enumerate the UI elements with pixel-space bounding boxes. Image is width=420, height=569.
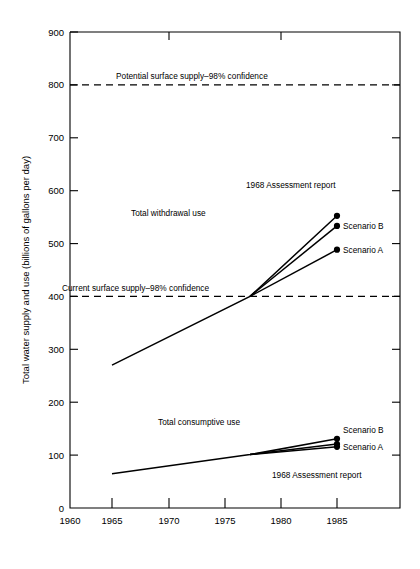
y-tick-label-800: 800	[48, 79, 64, 90]
label-withdrawal-scenario-a: Scenario A	[343, 245, 384, 255]
x-tick-label-1985: 1985	[326, 515, 347, 526]
label-total-withdrawal-use: Total withdrawal use	[131, 208, 206, 218]
label-withdrawal-1968-assessment-report: 1968 Assessment report	[246, 180, 336, 190]
x-axis-ticks-top	[169, 32, 281, 40]
y-tick-label-100: 100	[48, 450, 64, 461]
plot-frame	[70, 32, 400, 508]
y-tick-label-500: 500	[48, 238, 64, 249]
endpoint-withdrawal-1968-assessment-report	[334, 213, 340, 219]
current-surface-supply-label: Current surface supply–98% confidence	[62, 283, 210, 293]
series-group-total-withdrawal-use: 1968 Assessment report Scenario B Scenar…	[112, 180, 384, 365]
y-axis-tick-labels: 900 800 700 600 500 400 300 200 100 0	[48, 27, 64, 514]
x-tick-label-1970: 1970	[158, 515, 179, 526]
endpoint-withdrawal-scenario-a	[334, 247, 340, 253]
x-tick-label-1965: 1965	[101, 515, 122, 526]
x-tick-label-1980: 1980	[270, 515, 291, 526]
y-tick-label-300: 300	[48, 344, 64, 355]
label-total-consumptive-use: Total consumptive use	[158, 417, 240, 427]
y-axis-title: Total water supply and use (billions of …	[20, 156, 31, 384]
endpoint-consumptive-1968-assessment-report	[334, 444, 340, 450]
axis-frame-path	[70, 32, 400, 508]
endpoint-consumptive-scenario-b	[334, 436, 340, 442]
y-tick-label-900: 900	[48, 27, 64, 38]
y-tick-label-200: 200	[48, 397, 64, 408]
x-axis-tick-labels: 1960 1965 1970 1975 1980 1985	[59, 515, 347, 526]
y-axis-ticks-right	[392, 85, 400, 455]
endpoint-withdrawal-scenario-b	[334, 223, 340, 229]
y-axis-ticks	[70, 32, 78, 455]
chart-figure: 900 800 700 600 500 400 300 200 100 0 19…	[0, 0, 420, 569]
reference-line-current-surface-supply: Current surface supply–98% confidence	[62, 283, 400, 296]
water-supply-use-line-chart: 900 800 700 600 500 400 300 200 100 0 19…	[0, 0, 420, 569]
y-tick-label-700: 700	[48, 132, 64, 143]
series-line-withdrawal-scenario-b	[250, 226, 337, 297]
label-consumptive-scenario-a: Scenario A	[343, 442, 384, 452]
series-line-consumptive-1968-assessment-report	[250, 447, 337, 455]
series-line-consumptive-scenario-b	[112, 439, 337, 474]
x-tick-label-1960: 1960	[59, 515, 80, 526]
label-consumptive-scenario-b: Scenario B	[343, 425, 384, 435]
y-tick-label-600: 600	[48, 185, 64, 196]
y-tick-label-0: 0	[59, 503, 64, 514]
potential-surface-supply-label: Potential surface supply–98% confidence	[116, 71, 268, 81]
x-tick-label-1975: 1975	[214, 515, 235, 526]
reference-line-potential-surface-supply: Potential surface supply–98% confidence	[70, 71, 400, 85]
series-group-total-consumptive-use: Scenario B Scenario A 1968 Assessment re…	[112, 417, 384, 480]
label-consumptive-1968-assessment-report: 1968 Assessment report	[272, 470, 362, 480]
x-axis-ticks	[112, 498, 337, 508]
label-withdrawal-scenario-b: Scenario B	[343, 221, 384, 231]
